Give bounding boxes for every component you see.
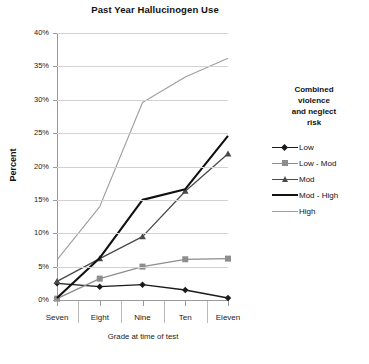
x-axis-separator bbox=[207, 301, 208, 323]
legend-item-mod[interactable]: Mod bbox=[272, 171, 368, 187]
y-axis-tick bbox=[53, 66, 57, 67]
chart-figure: Past Year Hallucinogen Use Percent 0%5%1… bbox=[0, 0, 369, 364]
legend: Combinedviolenceand neglectrisk LowLow -… bbox=[272, 84, 368, 219]
x-axis-tick-label: Eleven bbox=[206, 313, 250, 322]
series-low-mod bbox=[54, 256, 231, 302]
x-axis-separator bbox=[121, 301, 122, 323]
y-axis-tick-label: 10% bbox=[18, 228, 49, 237]
gridline bbox=[57, 233, 228, 234]
x-axis-tick bbox=[228, 301, 229, 306]
series-line bbox=[57, 154, 228, 281]
gridline bbox=[57, 200, 228, 201]
series-low bbox=[54, 280, 232, 301]
y-axis-tick-label: 25% bbox=[18, 128, 49, 137]
legend-swatch bbox=[272, 173, 298, 185]
legend-line-icon bbox=[272, 211, 298, 212]
legend-item-low-mod[interactable]: Low - Mod bbox=[272, 155, 368, 171]
gridline bbox=[57, 33, 228, 34]
legend-square-icon bbox=[282, 160, 288, 166]
legend-item-label: Mod bbox=[298, 175, 315, 184]
chart-title: Past Year Hallucinogen Use bbox=[40, 4, 270, 15]
legend-diamond-icon bbox=[281, 143, 288, 150]
series-high bbox=[57, 58, 228, 260]
series-line bbox=[57, 58, 228, 260]
legend-item-mod-high[interactable]: Mod - High bbox=[272, 187, 368, 203]
gridline bbox=[57, 100, 228, 101]
y-axis-tick bbox=[53, 133, 57, 134]
legend-item-label: High bbox=[298, 207, 315, 216]
x-axis-tick-label: Ten bbox=[163, 313, 207, 322]
x-axis-tick-labels: SevenEightNineTenEleven bbox=[0, 305, 369, 325]
legend-item-label: Mod - High bbox=[298, 191, 338, 200]
x-axis-tick-label: Seven bbox=[35, 313, 79, 322]
y-axis-tick-label: 40% bbox=[18, 28, 49, 37]
legend-swatch bbox=[272, 189, 298, 201]
legend-swatch bbox=[272, 157, 298, 169]
gridline bbox=[57, 66, 228, 67]
legend-title-line: risk bbox=[272, 117, 356, 128]
data-point-marker bbox=[139, 281, 146, 288]
data-point-marker bbox=[96, 283, 103, 290]
y-axis-tick bbox=[53, 167, 57, 168]
legend-item-label: Low - Mod bbox=[298, 159, 336, 168]
legend-title: Combinedviolenceand neglectrisk bbox=[272, 84, 356, 128]
y-axis-tick-label: 35% bbox=[18, 61, 49, 70]
y-axis-tick bbox=[53, 33, 57, 34]
data-point-marker bbox=[182, 256, 188, 262]
y-axis-tick-label: 15% bbox=[18, 195, 49, 204]
legend-title-line: Combined bbox=[272, 84, 356, 95]
y-axis-tick-label: 5% bbox=[18, 262, 49, 271]
data-point-marker bbox=[97, 276, 103, 282]
data-point-marker bbox=[182, 287, 189, 294]
legend-item-high[interactable]: High bbox=[272, 203, 368, 219]
x-axis-tick bbox=[185, 301, 186, 306]
legend-title-line: violence bbox=[272, 95, 356, 106]
x-axis-title: Grade at time of test bbox=[57, 332, 229, 341]
y-axis-tick bbox=[53, 267, 57, 268]
series-mod-high bbox=[57, 136, 228, 298]
legend-item-low[interactable]: Low bbox=[272, 139, 368, 155]
gridline bbox=[57, 267, 228, 268]
x-axis-separator bbox=[164, 301, 165, 323]
legend-items: LowLow - ModModMod - HighHigh bbox=[272, 139, 368, 219]
legend-title-line: and neglect bbox=[272, 106, 356, 117]
legend-triangle-icon bbox=[282, 176, 288, 182]
gridline bbox=[57, 133, 228, 134]
legend-swatch bbox=[272, 141, 298, 153]
legend-line-icon bbox=[272, 194, 298, 196]
data-point-marker bbox=[54, 278, 61, 284]
y-axis-tick-label: 30% bbox=[18, 95, 49, 104]
y-axis-tick bbox=[53, 100, 57, 101]
x-axis-separator bbox=[78, 301, 79, 323]
x-axis-tick bbox=[100, 301, 101, 306]
data-point-marker bbox=[225, 256, 231, 262]
series-line bbox=[57, 136, 228, 298]
x-axis-tick bbox=[143, 301, 144, 306]
gridline bbox=[57, 167, 228, 168]
y-axis-tick bbox=[53, 233, 57, 234]
data-point-marker bbox=[225, 150, 232, 156]
x-axis-tick bbox=[57, 301, 58, 306]
y-axis-tick-label: 20% bbox=[18, 162, 49, 171]
x-axis-tick-label: Eight bbox=[78, 313, 122, 322]
y-axis-tick bbox=[53, 200, 57, 201]
y-axis-title: Percent bbox=[8, 130, 18, 200]
legend-item-label: Low bbox=[298, 143, 314, 152]
legend-swatch bbox=[272, 205, 298, 217]
x-axis-tick-label: Nine bbox=[121, 313, 165, 322]
y-axis-tick-label: 0% bbox=[18, 295, 49, 304]
